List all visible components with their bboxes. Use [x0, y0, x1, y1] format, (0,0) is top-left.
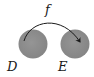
domain-set-label: D	[7, 60, 17, 73]
set-e-circle	[61, 30, 90, 59]
function-label: f	[45, 3, 50, 16]
set-d-circle	[19, 30, 48, 59]
codomain-set-label: E	[58, 60, 68, 73]
function-mapping-diagram: f D E	[0, 0, 94, 77]
